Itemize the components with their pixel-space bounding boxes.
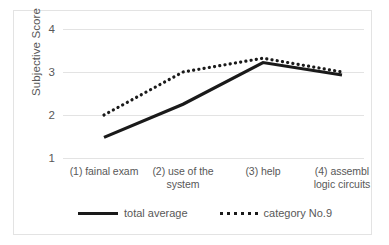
y-axis-title: Subjective Score bbox=[30, 0, 42, 112]
gridlines bbox=[63, 29, 364, 158]
y-tick-label: 4 bbox=[33, 24, 55, 34]
y-tick-label: 1 bbox=[33, 153, 55, 163]
x-tick-label: (3) help bbox=[218, 165, 308, 178]
x-tick-label: (2) use of thesystem bbox=[138, 165, 228, 191]
legend-entry-category-no9: category No.9 bbox=[218, 207, 332, 219]
legend-entry-total-average: total average bbox=[78, 207, 188, 219]
x-tick-label: (4) assembllogic circuits bbox=[297, 165, 387, 191]
series-lines bbox=[104, 58, 342, 137]
plot-area: Subjective Score 1234 (1) fainal exam(2)… bbox=[0, 0, 389, 245]
legend-label: category No.9 bbox=[264, 207, 332, 219]
legend-swatch-solid-icon bbox=[78, 212, 118, 215]
series-line-2 bbox=[104, 58, 342, 115]
y-tick-label: 2 bbox=[33, 110, 55, 120]
legend-label: total average bbox=[124, 207, 188, 219]
legend-swatch-dotted-icon bbox=[218, 212, 258, 215]
series-line-1 bbox=[104, 63, 342, 138]
chart-legend: total average category No.9 bbox=[60, 203, 350, 223]
y-tick-label: 3 bbox=[33, 67, 55, 77]
x-tick-label: (1) fainal exam bbox=[59, 165, 149, 178]
chart-screenshot: Subjective Score 1234 (1) fainal exam(2)… bbox=[0, 0, 389, 245]
